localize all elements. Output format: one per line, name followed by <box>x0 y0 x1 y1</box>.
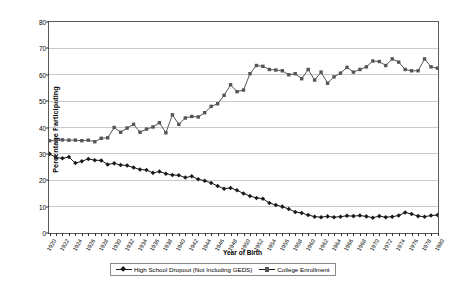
series-point-marker <box>112 126 115 129</box>
series-point-marker <box>216 102 219 105</box>
series-point-marker <box>138 167 143 172</box>
series-point-marker <box>371 59 374 62</box>
x-axis-tick-mark <box>140 233 141 236</box>
x-axis-tick-mark <box>244 233 245 236</box>
chart-canvas <box>49 22 438 233</box>
series-point-marker <box>132 123 135 126</box>
x-axis-tick-mark <box>231 233 232 236</box>
series-point-marker <box>422 214 427 219</box>
series-point-marker <box>378 60 381 63</box>
series-point-marker <box>384 64 387 67</box>
series-point-marker <box>118 163 123 168</box>
x-axis-tick-mark <box>379 233 380 236</box>
x-axis-tick-mark <box>185 233 186 236</box>
series-point-marker <box>364 214 369 219</box>
series-point-marker <box>268 68 271 71</box>
series-point-marker <box>391 57 394 60</box>
x-axis-tick-mark <box>269 233 270 236</box>
x-axis-tick-mark <box>347 233 348 236</box>
series-point-marker <box>170 173 175 178</box>
series-point-marker <box>397 60 400 63</box>
series-point-marker <box>203 111 206 114</box>
legend-item-dropout: High School Dropout (Not Including GEDS) <box>116 266 252 273</box>
series-point-marker <box>410 69 413 72</box>
series-point-marker <box>164 171 169 176</box>
series-point-marker <box>429 65 432 68</box>
x-axis-tick-mark <box>237 233 238 236</box>
series-point-marker <box>255 64 258 67</box>
x-axis-tick-mark <box>360 233 361 236</box>
series-point-marker <box>209 181 214 186</box>
x-axis-tick-mark <box>341 233 342 236</box>
series-point-marker <box>229 83 232 86</box>
x-axis-tick-mark <box>276 233 277 236</box>
y-axis-tick-label: 50 <box>39 98 46 105</box>
series-point-marker <box>106 136 109 139</box>
series-point-marker <box>99 158 104 163</box>
series-point-marker <box>306 213 311 218</box>
series-point-marker <box>131 165 136 170</box>
y-axis-tick-mark <box>46 48 49 49</box>
series-point-marker <box>184 116 187 119</box>
y-axis-tick-label: 70 <box>39 45 46 52</box>
series-point-marker <box>80 159 85 164</box>
series-point-marker <box>280 204 285 209</box>
series-point-marker <box>93 140 96 143</box>
series-point-marker <box>80 139 83 142</box>
series-point-marker <box>228 186 233 191</box>
series-point-marker <box>436 66 438 69</box>
series-point-marker <box>151 125 154 128</box>
series-point-marker <box>306 68 309 71</box>
series-point-marker <box>403 210 408 215</box>
series-point-marker <box>371 215 376 220</box>
series-point-marker <box>294 72 297 75</box>
x-axis-tick-mark <box>205 233 206 236</box>
series-point-marker <box>157 169 162 174</box>
series-point-marker <box>144 168 149 173</box>
series-point-marker <box>183 175 188 180</box>
series-point-marker <box>105 162 110 167</box>
series-point-marker <box>125 163 130 168</box>
series-point-marker <box>351 214 356 219</box>
chart-figure: Percentage Participating 010203040506070… <box>0 0 465 288</box>
series-point-marker <box>429 213 434 218</box>
series-point-marker <box>325 214 330 219</box>
x-axis-tick-mark <box>295 233 296 236</box>
series-point-marker <box>61 138 64 141</box>
series-point-marker <box>171 113 174 116</box>
series-point-marker <box>54 155 59 160</box>
series-point-marker <box>87 138 90 141</box>
series-point-marker <box>416 69 419 72</box>
y-axis-tick-mark <box>46 74 49 75</box>
x-axis-tick-mark <box>412 233 413 236</box>
x-axis-tick-mark <box>127 233 128 236</box>
series-point-marker <box>365 65 368 68</box>
x-axis-tick-mark <box>315 233 316 236</box>
y-axis-tick-label: 60 <box>39 71 46 78</box>
series-point-marker <box>215 184 220 189</box>
series-point-marker <box>241 191 246 196</box>
x-axis-tick-mark <box>431 233 432 236</box>
series-point-marker <box>86 157 91 162</box>
y-axis-tick-mark <box>46 127 49 128</box>
series-point-marker <box>281 69 284 72</box>
series-point-marker <box>396 213 401 218</box>
x-axis-tick-mark <box>308 233 309 236</box>
series-point-marker <box>299 211 304 216</box>
x-axis-tick-mark <box>282 233 283 236</box>
series-point-marker <box>158 121 161 124</box>
series-point-marker <box>119 131 122 134</box>
series-point-marker <box>248 72 251 75</box>
x-axis-tick-mark <box>166 233 167 236</box>
x-axis-tick-mark <box>392 233 393 236</box>
series-point-marker <box>384 215 389 220</box>
x-axis-tick-mark <box>88 233 89 236</box>
series-point-marker <box>235 90 238 93</box>
x-axis-tick-mark <box>250 233 251 236</box>
series-point-marker <box>145 127 148 130</box>
series-point-marker <box>248 194 253 199</box>
x-axis-tick-mark <box>425 233 426 236</box>
series-point-marker <box>319 215 324 220</box>
series-point-marker <box>242 88 245 91</box>
legend-label-college: College Enrollment <box>277 266 329 273</box>
